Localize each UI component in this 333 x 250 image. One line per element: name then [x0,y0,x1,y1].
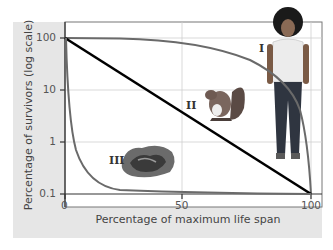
x-tick-0: 0 [61,199,68,211]
x-tick-50: 50 [175,199,188,211]
y-tick-0-1: 0.1 [26,187,56,199]
curve-label-I: I [259,42,264,55]
y-tick-100: 100 [26,31,56,43]
y-tick-10: 10 [26,83,56,95]
y-axis-label: Percentage of survivors (log scale) [8,22,48,207]
x-axis-label: Percentage of maximum life span [65,213,311,226]
y-tick-1: 1 [26,135,56,147]
curve-label-III: III [109,154,124,167]
oyster-image [122,146,175,178]
curve-label-II: II [186,99,196,112]
x-tick-100: 100 [301,199,321,211]
